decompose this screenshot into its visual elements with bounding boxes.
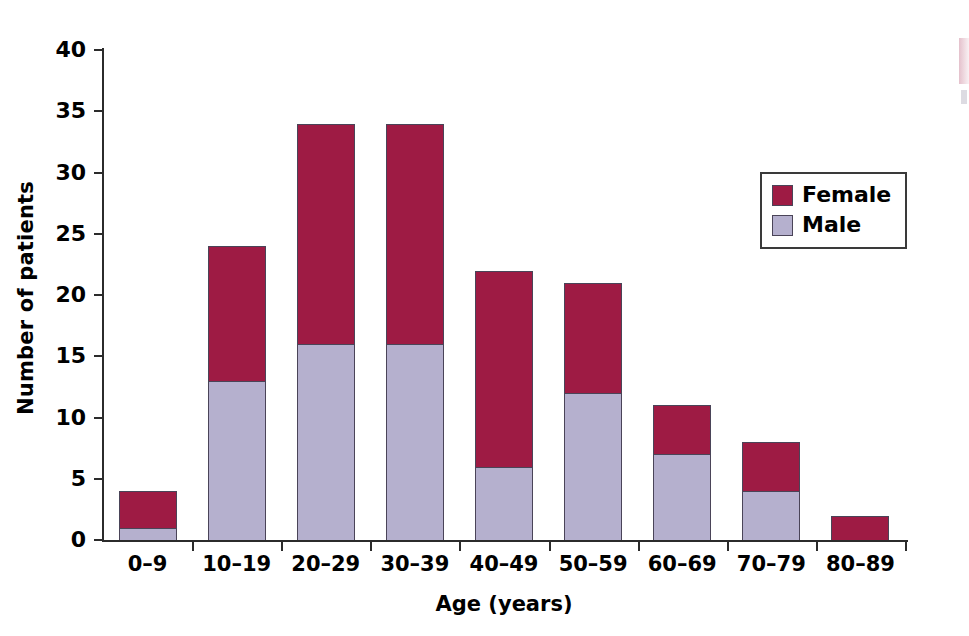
bar-segment-male-0-9[interactable]: [119, 528, 177, 540]
y-tick-label-0: 0: [40, 529, 86, 551]
y-tick-label-10: 10: [40, 407, 86, 429]
bar-group-20-29[interactable]: [297, 124, 355, 541]
y-tick-label-25: 25: [40, 223, 86, 245]
bar-segment-female-80-89[interactable]: [831, 516, 889, 541]
bar-segment-female-30-39[interactable]: [386, 124, 444, 345]
bar-group-30-39[interactable]: [386, 124, 444, 541]
y-tick-label-35: 35: [40, 100, 86, 122]
bar-segment-male-40-49[interactable]: [475, 467, 533, 541]
bar-segment-male-10-19[interactable]: [208, 381, 266, 540]
x-tick-mark-3: [370, 542, 372, 551]
bar-segment-male-50-59[interactable]: [564, 393, 622, 540]
bar-segment-male-70-79[interactable]: [742, 491, 800, 540]
y-tick-mark-30: [94, 172, 103, 174]
bar-group-70-79[interactable]: [742, 442, 800, 540]
legend-label-female: Female: [802, 184, 891, 206]
y-tick-label-20: 20: [40, 284, 86, 306]
bar-segment-male-60-69[interactable]: [653, 454, 711, 540]
x-axis-line: [102, 540, 908, 542]
y-tick-mark-5: [94, 478, 103, 480]
x-tick-mark-7: [727, 542, 729, 551]
x-tick-mark-8: [816, 542, 818, 551]
bar-segment-female-20-29[interactable]: [297, 124, 355, 345]
bar-segment-female-10-19[interactable]: [208, 246, 266, 381]
edge-artifact-fragment: [959, 38, 969, 84]
bar-segment-female-60-69[interactable]: [653, 405, 711, 454]
x-tick-mark-6: [638, 542, 640, 551]
y-tick-mark-35: [94, 110, 103, 112]
y-tick-label-5: 5: [40, 468, 86, 490]
x-tick-mark-end: [905, 542, 907, 551]
bar-group-0-9[interactable]: [119, 491, 177, 540]
y-tick-mark-25: [94, 233, 103, 235]
x-tick-mark-2: [281, 542, 283, 551]
bar-segment-female-0-9[interactable]: [119, 491, 177, 528]
y-axis-title: Number of patients: [14, 168, 38, 428]
bar-group-60-69[interactable]: [653, 405, 711, 540]
y-tick-label-30: 30: [40, 162, 86, 184]
x-axis-title: Age (years): [103, 592, 905, 616]
bar-group-10-19[interactable]: [208, 246, 266, 540]
y-axis-tick-labels: 0510152025303540: [38, 0, 86, 636]
legend-swatch-male-icon: [772, 215, 793, 236]
y-tick-mark-40: [94, 49, 103, 51]
x-tick-mark-5: [549, 542, 551, 551]
bar-segment-female-40-49[interactable]: [475, 271, 533, 467]
y-tick-label-40: 40: [40, 39, 86, 61]
legend-swatch-female-icon: [772, 185, 793, 206]
legend: Female Male: [760, 172, 907, 249]
bar-segment-female-50-59[interactable]: [564, 283, 622, 393]
bar-segment-male-20-29[interactable]: [297, 344, 355, 540]
legend-entry-female: Female: [772, 180, 891, 210]
bar-segment-male-30-39[interactable]: [386, 344, 444, 540]
plot-area: [103, 50, 905, 540]
bar-group-80-89[interactable]: [831, 516, 889, 541]
y-tick-mark-0: [94, 539, 103, 541]
y-tick-label-15: 15: [40, 345, 86, 367]
legend-label-male: Male: [802, 214, 861, 236]
x-tick-mark-1: [192, 542, 194, 551]
bar-segment-female-70-79[interactable]: [742, 442, 800, 491]
x-tick-mark-4: [459, 542, 461, 551]
y-tick-mark-15: [94, 355, 103, 357]
edge-artifact-fragment-secondary: [961, 90, 967, 104]
chart-figure: Number of patients 0510152025303540 0–91…: [0, 0, 969, 636]
x-tick-label-80-89: 80–89: [800, 552, 920, 576]
bar-group-50-59[interactable]: [564, 283, 622, 540]
y-tick-mark-10: [94, 417, 103, 419]
bar-group-40-49[interactable]: [475, 271, 533, 541]
y-tick-mark-20: [94, 294, 103, 296]
legend-entry-male: Male: [772, 210, 891, 240]
